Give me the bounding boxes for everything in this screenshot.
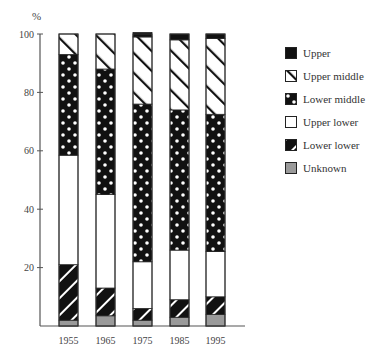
bar-segment-lower-lower — [170, 300, 189, 318]
legend-label: Upper lower — [303, 116, 358, 128]
bar-1965 — [96, 34, 115, 326]
bar-1975 — [133, 33, 152, 326]
y-tick-label: 20 — [24, 262, 34, 273]
legend-item: Lower middle — [285, 87, 365, 110]
legend-item: Lower lower — [285, 133, 365, 156]
bar-segment-lower-lower — [59, 265, 78, 320]
bar-segment-lower-lower — [96, 288, 115, 316]
legend-swatch-black-dots — [285, 93, 297, 105]
bar-1985 — [170, 34, 189, 326]
legend-swatch-white-stripes — [285, 70, 297, 82]
legend-item: Upper — [285, 41, 365, 64]
bar-segment-upper-middle — [59, 34, 78, 54]
y-axis-unit-label: % — [32, 10, 41, 22]
legend-label: Unknown — [303, 162, 346, 174]
bar-segment-upper-lower — [133, 262, 152, 309]
legend-label: Lower lower — [303, 139, 360, 151]
x-tick-label: 1995 — [206, 335, 226, 346]
bar-segment-lower-lower — [206, 297, 225, 315]
bar-1995 — [206, 34, 225, 326]
bar-segment-lower-middle — [96, 69, 115, 195]
legend: UpperUpper middleLower middleUpper lower… — [285, 41, 365, 179]
legend-label: Upper middle — [303, 70, 364, 82]
x-axis-labels: 19551965197519851995 — [59, 335, 226, 346]
bars-group — [59, 33, 225, 326]
bar-segment-upper-lower — [170, 250, 189, 300]
bar-segment-lower-middle — [206, 114, 225, 251]
bar-segment-unknown — [133, 320, 152, 326]
x-tick-label: 1975 — [133, 335, 153, 346]
y-tick-label: 100 — [19, 29, 34, 40]
bar-segment-upper-lower — [96, 195, 115, 288]
legend-item: Upper middle — [285, 64, 365, 87]
legend-item: Upper lower — [285, 110, 365, 133]
bar-segment-lower-middle — [170, 110, 189, 250]
y-tick-label: 80 — [24, 87, 34, 98]
legend-swatch-black — [285, 47, 297, 59]
bar-segment-upper-middle — [96, 34, 115, 69]
bar-segment-unknown — [170, 317, 189, 326]
legend-label: Upper — [303, 47, 331, 59]
bar-segment-unknown — [59, 320, 78, 326]
bar-segment-upper-middle — [206, 38, 225, 114]
bar-segment-upper — [133, 33, 152, 37]
legend-swatch-gray — [285, 162, 297, 174]
legend-swatch-black-stripes — [285, 139, 297, 151]
x-tick-label: 1985 — [170, 335, 190, 346]
bar-segment-unknown — [206, 314, 225, 326]
bar-segment-upper-lower — [59, 155, 78, 265]
bar-segment-lower-middle — [133, 104, 152, 262]
bar-segment-upper — [206, 34, 225, 38]
bar-segment-unknown — [96, 316, 115, 326]
bar-1955 — [59, 34, 78, 326]
bar-segment-upper-middle — [170, 40, 189, 110]
y-tick-label: 40 — [24, 204, 34, 215]
legend-swatch-white — [285, 116, 297, 128]
x-tick-label: 1955 — [59, 335, 79, 346]
legend-item: Unknown — [285, 156, 365, 179]
bar-segment-upper — [170, 34, 189, 40]
x-tick-label: 1965 — [96, 335, 116, 346]
y-tick-label: 60 — [24, 145, 34, 156]
bar-segment-lower-middle — [59, 54, 78, 155]
bar-segment-upper-lower — [206, 252, 225, 297]
bar-segment-lower-lower — [133, 308, 152, 320]
legend-label: Lower middle — [303, 93, 365, 105]
bar-segment-upper-middle — [133, 37, 152, 104]
